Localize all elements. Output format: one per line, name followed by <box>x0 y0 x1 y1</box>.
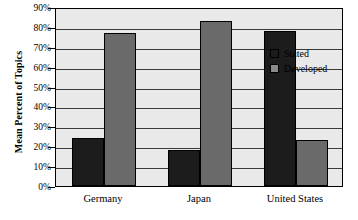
bar-chart: Mean Percent of Topics 90%80%70%60%50%40… <box>0 0 358 220</box>
y-tick-label: 80% <box>18 23 51 33</box>
legend-item-stated[interactable]: Stated <box>270 46 354 61</box>
y-axis-tick-mark <box>48 167 55 168</box>
y-axis-tick-mark <box>48 127 55 128</box>
legend-swatch-icon <box>270 64 279 73</box>
y-tick-label: 40% <box>18 102 51 112</box>
x-tick-label: United States <box>247 192 343 206</box>
y-axis-tick-mark <box>48 28 55 29</box>
bar-japan-stated <box>168 150 200 186</box>
gridline <box>56 108 342 109</box>
gridline <box>56 128 342 129</box>
legend-label: Stated <box>284 48 309 59</box>
y-tick-label: 10% <box>18 162 51 172</box>
bar-germany-stated <box>72 138 104 186</box>
y-axis-tick-mark <box>48 68 55 69</box>
bar-united-states-developed <box>296 140 328 186</box>
y-axis-tick-labels: 90%80%70%60%50%40%30%20%10%0% <box>18 0 51 190</box>
bar-germany-developed <box>104 33 136 186</box>
gridline <box>56 29 342 30</box>
y-tick-label: 60% <box>18 63 51 73</box>
legend-label: Developed <box>284 63 327 74</box>
y-tick-label: 90% <box>18 3 51 13</box>
y-tick-label: 20% <box>18 142 51 152</box>
y-tick-label: 30% <box>18 122 51 132</box>
legend-item-developed[interactable]: Developed <box>270 61 354 76</box>
y-axis-tick-mark <box>48 187 55 188</box>
y-axis-tick-mark <box>48 8 55 9</box>
legend-swatch-icon <box>270 49 279 58</box>
y-tick-label: 50% <box>18 83 51 93</box>
y-tick-label: 0% <box>18 182 51 192</box>
bar-japan-developed <box>200 21 232 186</box>
gridline <box>56 89 342 90</box>
x-tick-label: Japan <box>151 192 247 206</box>
x-tick-label: Germany <box>55 192 151 206</box>
y-axis-tick-mark <box>48 147 55 148</box>
y-axis-tick-mark <box>48 88 55 89</box>
y-tick-label: 70% <box>18 43 51 53</box>
plot-area <box>55 8 343 187</box>
y-axis-tick-mark <box>48 48 55 49</box>
y-axis-tick-mark <box>48 107 55 108</box>
chart-legend: StatedDeveloped <box>270 46 354 76</box>
x-axis-tick-labels: GermanyJapanUnited States <box>55 192 343 208</box>
